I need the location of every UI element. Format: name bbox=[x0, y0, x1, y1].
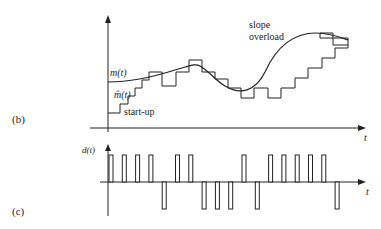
positive-pulse bbox=[269, 155, 273, 182]
positive-pulse bbox=[189, 155, 193, 182]
negative-pulse bbox=[335, 182, 339, 209]
approx-signal-label: m̂(t) bbox=[114, 89, 131, 101]
negative-pulse bbox=[229, 182, 233, 209]
positive-pulse bbox=[136, 155, 140, 182]
startup-label: start-up bbox=[124, 106, 155, 117]
negative-pulse bbox=[255, 182, 259, 209]
panel-c-label: (c) bbox=[12, 205, 25, 218]
panel-b-time-label: t bbox=[364, 132, 367, 143]
slope-overload-label-line2: overload bbox=[249, 31, 284, 42]
positive-pulse bbox=[176, 155, 180, 182]
positive-pulse bbox=[322, 155, 326, 182]
positive-pulse bbox=[282, 155, 286, 182]
slope-overload-label-line1: slope bbox=[249, 19, 271, 30]
panel-c-t-arrow-icon bbox=[358, 179, 366, 185]
positive-pulse bbox=[109, 155, 113, 182]
panel-c-time-label: t bbox=[366, 186, 369, 197]
staircase-approximation bbox=[108, 33, 348, 113]
positive-pulse bbox=[295, 155, 299, 182]
negative-pulse bbox=[162, 182, 166, 209]
message-signal-label: m(t) bbox=[110, 67, 127, 79]
panel-b-y-arrow-icon bbox=[105, 15, 111, 23]
negative-pulse bbox=[202, 182, 206, 209]
panel-b-t-arrow-icon bbox=[358, 125, 366, 131]
panel-c-y-arrow-icon bbox=[105, 144, 111, 151]
delta-modulation-figure: (b) m(t) m̂(t) start-up slope overload t… bbox=[0, 0, 381, 229]
positive-pulse bbox=[242, 155, 246, 182]
negative-pulse bbox=[215, 182, 219, 209]
pulse-signal-label: d(t) bbox=[82, 145, 95, 155]
panel-b-label: (b) bbox=[12, 113, 25, 126]
positive-pulse bbox=[122, 155, 126, 182]
positive-pulse bbox=[149, 155, 153, 182]
positive-pulse bbox=[309, 155, 313, 182]
